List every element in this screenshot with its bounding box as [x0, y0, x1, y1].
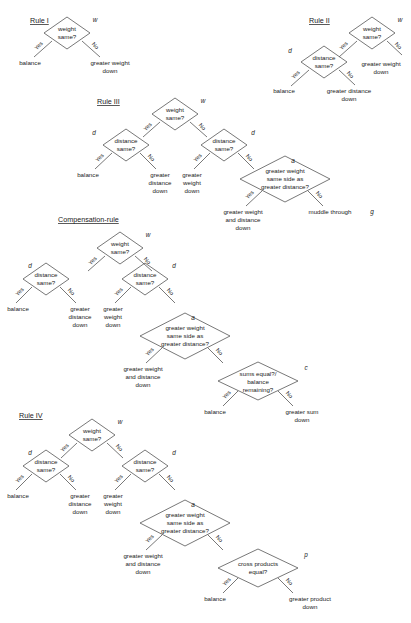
node-label-distance: distance: [312, 54, 336, 61]
leaf-down: down: [73, 321, 88, 328]
section-rule-4: Rule IV weight same? w Yes No distance s…: [7, 411, 331, 610]
node-label-balance: balance: [247, 378, 269, 385]
cue-label-a: a: [291, 157, 295, 164]
leaf-gw: greater weight: [123, 365, 162, 372]
node-label-distance-2: same?: [136, 279, 155, 286]
node-label-distance-2: same?: [136, 466, 155, 473]
cue-label-c: c: [304, 364, 308, 371]
branch-label-no: No: [215, 534, 224, 543]
section-rule-2: Rule II weight same? w Yes No greater we…: [273, 16, 403, 102]
cue-label-d: d: [172, 449, 176, 456]
leaf-distance: distance: [68, 313, 92, 320]
leaf-down: down: [236, 224, 251, 231]
leaf-down: down: [185, 187, 200, 194]
leaf-greater: greater: [103, 492, 123, 499]
node-label-weight-2: same?: [83, 435, 102, 442]
leaf-greater: greater: [70, 492, 90, 499]
cue-label-d: d: [28, 262, 32, 269]
node-label-distance: distance: [133, 458, 157, 465]
leaf-balance: balance: [7, 305, 29, 312]
leaf-greater: greater: [150, 171, 170, 178]
section-compensation-rule: Compensation-rule weight same? w Yes No …: [7, 215, 318, 423]
node-label-weight-2: same?: [166, 114, 185, 121]
leaf-greater: greater: [182, 171, 202, 178]
node-label-distance-2: same?: [315, 62, 334, 69]
leaf-greater: greater: [103, 305, 123, 312]
leaf-balance: balance: [273, 87, 295, 94]
node-label-weight: weight: [362, 25, 381, 32]
leaf-greater-distance: greater distance: [327, 87, 372, 94]
node-label-gd: greater distance?: [261, 183, 309, 190]
node-label-weight-2: same?: [111, 248, 130, 255]
cue-label-w: w: [93, 16, 98, 23]
leaf-greater-distance-down: down: [342, 95, 357, 102]
section-title-rule-2: Rule II: [309, 16, 330, 25]
node-label-weight-2: same?: [363, 33, 382, 40]
node-label-weight: weight: [57, 25, 76, 32]
branch-label-no: No: [285, 577, 294, 586]
section-title-rule-1: Rule I: [30, 16, 49, 25]
node-label-gw: greater weight: [165, 324, 204, 331]
leaf-and-distance: and distance: [125, 560, 161, 567]
cue-label-a: a: [191, 501, 195, 508]
node-label-weight: weight: [110, 240, 129, 247]
leaf-balance: balance: [204, 408, 226, 415]
branch-label-no: No: [115, 443, 124, 452]
leaf-greater-weight-down: down: [374, 68, 389, 75]
leaf-gw: greater weight: [223, 208, 262, 215]
leaf-greater-product-down: down: [303, 603, 318, 610]
cue-label-d: d: [288, 47, 292, 54]
node-label-gd: greater distance?: [161, 340, 209, 347]
leaf-balance: balance: [19, 59, 41, 66]
node-label-ss: same side as: [267, 175, 303, 182]
cue-label-a: a: [191, 314, 195, 321]
leaf-down: down: [136, 381, 151, 388]
node-label-cross-products: cross products: [238, 560, 278, 567]
branch-label-yes: Yes: [87, 255, 98, 266]
node-label-distance-2: same?: [37, 279, 56, 286]
section-rule-1: Rule I weight same? w Yes No balance gre…: [19, 16, 130, 74]
cue-label-d: d: [172, 262, 176, 269]
leaf-weight: weight: [103, 313, 122, 320]
cue-label-w: w: [398, 16, 403, 23]
cue-label-w: w: [201, 97, 206, 104]
branch-label-no: No: [215, 347, 224, 356]
branch-label-no: No: [285, 390, 294, 399]
branch-label-no: No: [315, 190, 324, 199]
branch-label-yes: Yes: [142, 121, 153, 132]
leaf-greater-sum: greater sum: [285, 408, 318, 415]
node-label-weight: weight: [165, 106, 184, 113]
leaf-greater-weight-down: down: [103, 67, 118, 74]
cue-label-w: w: [146, 231, 151, 238]
leaf-greater-weight: greater weight: [90, 59, 129, 66]
section-title-compensation-rule: Compensation-rule: [58, 215, 119, 224]
leaf-weight: weight: [103, 500, 122, 507]
node-label-distance: distance: [34, 271, 58, 278]
node-label-weight-2: same?: [58, 33, 77, 40]
cue-label-w: w: [118, 418, 123, 425]
leaf-greater: greater: [70, 305, 90, 312]
node-label-sums-equal: sums equal?/: [240, 370, 277, 377]
leaf-down: down: [106, 508, 121, 515]
leaf-and-distance: and distance: [225, 216, 261, 223]
leaf-balance: balance: [77, 171, 99, 178]
leaf-greater-sum-down: down: [295, 416, 310, 423]
node-label-weight: weight: [82, 427, 101, 434]
node-label-ss: same side as: [167, 332, 203, 339]
leaf-balance: balance: [204, 595, 226, 602]
node-label-distance: distance: [114, 137, 138, 144]
node-label-gd: greater distance?: [161, 527, 209, 534]
node-label-distance: distance: [212, 137, 236, 144]
node-label-remaining: remaining?: [243, 386, 274, 393]
leaf-down: down: [136, 568, 151, 575]
section-title-rule-3: Rule III: [97, 97, 120, 106]
branch-label-yes: Yes: [144, 346, 155, 357]
leaf-down: down: [153, 187, 168, 194]
section-title-rule-4: Rule IV: [19, 411, 43, 420]
leaf-down: down: [106, 321, 121, 328]
section-rule-3: Rule III weight same? w Yes No distance …: [77, 97, 374, 231]
node-label-distance-2: same?: [215, 145, 234, 152]
decision-tree-diagram: Rule I weight same? w Yes No balance gre…: [0, 0, 411, 623]
cue-label-d: d: [92, 129, 96, 136]
node-label-distance: distance: [133, 271, 157, 278]
